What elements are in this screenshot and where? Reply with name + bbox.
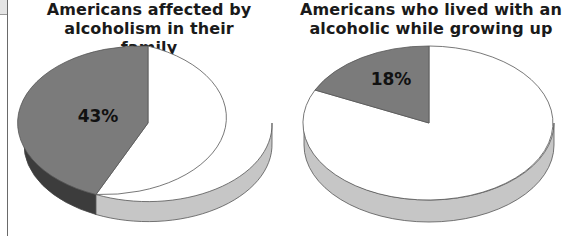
pie-charts: 43% 18% <box>0 0 572 236</box>
pie-left: 43% <box>18 46 272 222</box>
pie-left-label: 43% <box>78 106 119 126</box>
pie-right-label: 18% <box>371 69 412 89</box>
pie-right: 18% <box>303 46 554 222</box>
